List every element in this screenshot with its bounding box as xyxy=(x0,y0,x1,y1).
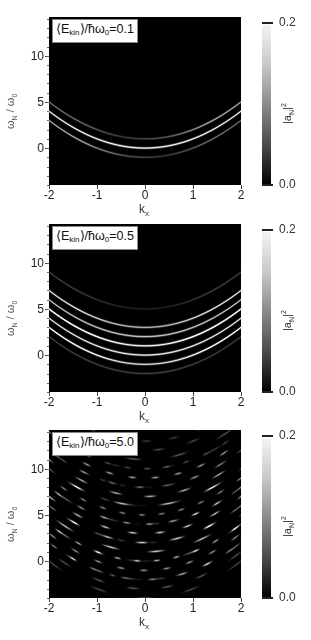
y-minor-tick xyxy=(47,533,49,534)
panel-1: ⟨Ekin⟩/ħω0=0.10510-2-1012kxωN / ω00.20.0… xyxy=(0,0,311,210)
heatmap-plot: ⟨Ekin⟩/ħω0=0.1 xyxy=(49,17,241,185)
y-axis-label: ωN / ω0 xyxy=(4,507,18,542)
x-tick-label: -1 xyxy=(87,395,107,409)
colorbar-title: |aN|2 xyxy=(280,310,295,331)
panel-3: ⟨Ekin⟩/ħω0=5.00510-2-1012kxωN / ω00.20.0… xyxy=(0,413,311,623)
label-value: =0.1 xyxy=(109,22,134,36)
y-minor-tick xyxy=(47,74,49,75)
y-minor-tick xyxy=(47,56,49,57)
x-axis-label: kx xyxy=(139,615,149,631)
x-tick-label: -2 xyxy=(39,601,59,615)
heatmap-plot: ⟨Ekin⟩/ħω0=0.5 xyxy=(49,224,241,392)
x-tick-label: 0 xyxy=(135,395,155,409)
x-tick-mark xyxy=(97,392,98,396)
label-value: =0.5 xyxy=(109,229,134,243)
y-minor-tick xyxy=(47,327,49,328)
heatmap-plot: ⟨Ekin⟩/ħω0=5.0 xyxy=(49,430,241,598)
y-minor-tick xyxy=(47,300,49,301)
colorbar-title: |aN|2 xyxy=(280,103,295,124)
y-minor-tick xyxy=(47,543,49,544)
y-minor-tick xyxy=(47,226,49,227)
colorbar-tick-max xyxy=(262,229,273,231)
y-minor-tick xyxy=(47,235,49,236)
colorbar xyxy=(262,25,271,185)
y-minor-tick xyxy=(47,176,49,177)
label-prefix: ⟨E xyxy=(56,435,69,449)
label-sub-kin: kin xyxy=(69,441,79,450)
colorbar xyxy=(262,232,271,392)
y-minor-tick xyxy=(47,318,49,319)
y-minor-tick xyxy=(47,167,49,168)
y-minor-tick xyxy=(47,450,49,451)
x-tick-label: 2 xyxy=(231,188,251,202)
y-minor-tick xyxy=(47,524,49,525)
y-minor-tick xyxy=(47,469,49,470)
y-minor-tick xyxy=(47,552,49,553)
label-suffix: ⟩/ħω xyxy=(80,22,105,36)
y-minor-tick xyxy=(47,93,49,94)
colorbar-max-label: 0.2 xyxy=(279,15,296,29)
y-minor-tick xyxy=(47,28,49,29)
y-minor-tick xyxy=(47,383,49,384)
y-tick-label: 5 xyxy=(24,508,44,522)
y-minor-tick xyxy=(47,157,49,158)
x-tick-mark xyxy=(145,392,146,396)
y-minor-tick xyxy=(47,263,49,264)
y-minor-tick xyxy=(47,244,49,245)
y-minor-tick xyxy=(47,589,49,590)
x-tick-label: -1 xyxy=(87,601,107,615)
y-minor-tick xyxy=(47,272,49,273)
x-tick-mark xyxy=(193,598,194,602)
y-minor-tick xyxy=(47,460,49,461)
y-minor-tick xyxy=(47,19,49,20)
y-axis-label: ωN / ω0 xyxy=(4,94,18,129)
y-minor-tick xyxy=(47,580,49,581)
y-minor-tick xyxy=(47,487,49,488)
colorbar-max-label: 0.2 xyxy=(279,428,296,442)
y-minor-tick xyxy=(47,148,49,149)
y-minor-tick xyxy=(47,364,49,365)
panel-2: ⟨Ekin⟩/ħω0=0.50510-2-1012kxωN / ω00.20.0… xyxy=(0,207,311,417)
x-tick-mark xyxy=(193,392,194,396)
x-tick-label: 1 xyxy=(183,601,203,615)
y-minor-tick xyxy=(47,570,49,571)
label-prefix: ⟨E xyxy=(56,22,69,36)
y-tick-label: 0 xyxy=(24,554,44,568)
x-tick-mark xyxy=(49,392,50,396)
x-tick-mark xyxy=(49,598,50,602)
y-minor-tick xyxy=(47,515,49,516)
x-tick-label: 1 xyxy=(183,395,203,409)
y-tick-label: 5 xyxy=(24,302,44,316)
y-axis-label: ωN / ω0 xyxy=(4,301,18,336)
y-minor-tick xyxy=(47,496,49,497)
y-minor-tick xyxy=(47,139,49,140)
y-minor-tick xyxy=(47,111,49,112)
x-tick-mark xyxy=(241,392,242,396)
y-tick-label: 5 xyxy=(24,95,44,109)
y-minor-tick xyxy=(47,337,49,338)
label-sub-kin: kin xyxy=(69,235,79,244)
x-tick-mark xyxy=(49,185,50,189)
colorbar-tick-max xyxy=(262,22,273,24)
y-minor-tick xyxy=(47,281,49,282)
y-minor-tick xyxy=(47,47,49,48)
y-minor-tick xyxy=(47,309,49,310)
x-tick-mark xyxy=(145,598,146,602)
label-suffix: ⟩/ħω xyxy=(80,229,105,243)
x-tick-label: 2 xyxy=(231,601,251,615)
parameter-label: ⟨Ekin⟩/ħω0=0.1 xyxy=(52,19,138,43)
colorbar-min-label: 0.0 xyxy=(279,177,296,191)
y-minor-tick xyxy=(47,37,49,38)
y-minor-tick xyxy=(47,478,49,479)
colorbar-tick-max xyxy=(262,435,273,437)
x-tick-label: 2 xyxy=(231,395,251,409)
y-minor-tick xyxy=(47,561,49,562)
x-tick-mark xyxy=(241,185,242,189)
x-tick-mark xyxy=(193,185,194,189)
y-minor-tick xyxy=(47,120,49,121)
colorbar-title: |aN|2 xyxy=(280,516,295,537)
x-tick-label: -2 xyxy=(39,395,59,409)
y-minor-tick xyxy=(47,506,49,507)
y-minor-tick xyxy=(47,65,49,66)
y-tick-label: 0 xyxy=(24,141,44,155)
